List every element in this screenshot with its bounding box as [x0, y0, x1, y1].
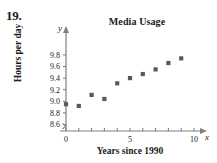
y-tick-label: 9.2 [50, 86, 60, 95]
y-tick-label: 8.6 [50, 120, 60, 129]
axes-layer [60, 26, 207, 134]
y-tick-label: 9.0 [50, 97, 60, 106]
ticks-layer [63, 55, 194, 131]
x-axis-variable-label: x [204, 132, 209, 142]
y-axis-variable-label: y [57, 23, 62, 33]
figure-container: 19. Media Usage Hours per day Years sinc… [0, 0, 217, 163]
data-point[interactable] [77, 104, 81, 108]
y-tick-label: 8.8 [50, 109, 60, 118]
y-axis-arrow [63, 26, 69, 33]
data-point[interactable] [179, 56, 183, 60]
x-tick-label: 10 [190, 135, 198, 144]
data-point[interactable] [115, 81, 119, 85]
x-tick-label: 5 [128, 135, 132, 144]
y-tick-label: 9.4 [50, 74, 60, 83]
scatter-plot: 8.68.89.09.29.49.69.80510 yx [0, 0, 217, 163]
data-point[interactable] [102, 97, 106, 101]
y-tick-label: 9.6 [50, 62, 60, 71]
data-point[interactable] [141, 72, 145, 76]
y-tick-label: 9.8 [50, 51, 60, 60]
data-point[interactable] [154, 67, 158, 71]
data-point[interactable] [64, 102, 68, 106]
x-tick-label: 0 [64, 135, 68, 144]
axis-variable-labels: yx [57, 23, 209, 142]
data-point[interactable] [166, 61, 170, 65]
data-point[interactable] [128, 76, 132, 80]
data-point[interactable] [90, 93, 94, 97]
data-points-layer [64, 56, 183, 108]
tick-labels-layer: 8.68.89.09.29.49.69.80510 [50, 51, 198, 144]
